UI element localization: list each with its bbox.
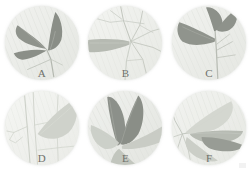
specimen-image-b: [88, 6, 162, 80]
specimen-disc-b: B: [88, 6, 162, 80]
specimen-plate: A: [0, 0, 251, 171]
specimen-disc-e: E: [88, 91, 162, 165]
specimen-image-f: [172, 91, 246, 165]
corner-mark: [239, 163, 246, 168]
specimen-disc-a: A: [5, 6, 79, 80]
specimen-image-d: [5, 91, 79, 165]
specimen-disc-d: D: [5, 91, 79, 165]
panel-f: F: [167, 86, 251, 172]
panel-d: D: [0, 86, 84, 172]
specimen-image-e: [88, 91, 162, 165]
specimen-disc-c: C: [172, 6, 246, 80]
panel-a: A: [0, 0, 84, 86]
specimen-disc-f: F: [172, 91, 246, 165]
panel-e: E: [84, 86, 168, 172]
specimen-image-a: [5, 6, 79, 80]
panel-b: B: [84, 0, 168, 86]
panel-c: C: [167, 0, 251, 86]
specimen-image-c: [172, 6, 246, 80]
